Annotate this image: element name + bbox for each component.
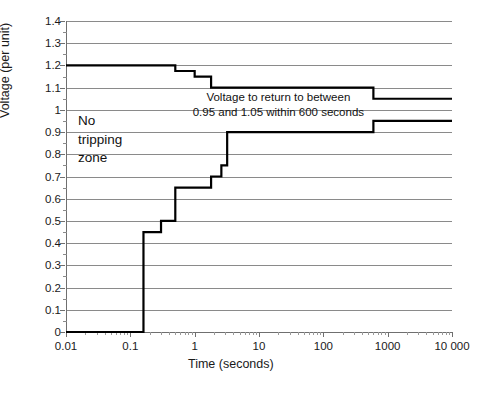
x-axis-minor-tick bbox=[298, 332, 299, 335]
x-axis-minor-tick bbox=[309, 332, 310, 335]
y-axis-minor-tick bbox=[63, 254, 67, 255]
y-axis-minor-tick bbox=[63, 299, 67, 300]
y-axis-tick bbox=[60, 221, 65, 222]
x-axis-minor-tick bbox=[385, 332, 386, 335]
x-axis-tick bbox=[66, 332, 67, 337]
gridline bbox=[66, 177, 452, 178]
x-axis-minor-tick bbox=[373, 332, 374, 335]
gridline bbox=[66, 132, 452, 133]
x-axis-minor-tick bbox=[317, 332, 318, 335]
x-axis-tick bbox=[195, 332, 196, 337]
x-axis-minor-tick bbox=[256, 332, 257, 335]
x-axis-minor-tick bbox=[192, 332, 193, 335]
y-axis-tick-label: 0.6 bbox=[45, 193, 61, 205]
x-axis-tick-label: 10 000 bbox=[434, 340, 469, 352]
x-axis-minor-tick bbox=[278, 332, 279, 335]
x-axis-minor-tick bbox=[214, 332, 215, 335]
x-axis-tick bbox=[130, 332, 131, 337]
x-axis-minor-tick bbox=[180, 332, 181, 335]
x-axis-minor-tick bbox=[120, 332, 121, 335]
no-tripping-zone-line3: zone bbox=[78, 149, 122, 168]
x-axis-minor-tick bbox=[225, 332, 226, 335]
y-axis-tick bbox=[60, 154, 65, 155]
y-axis-tick bbox=[60, 265, 65, 266]
x-axis-minor-tick bbox=[97, 332, 98, 335]
y-axis-tick-label: 0.1 bbox=[45, 304, 61, 316]
y-axis-minor-tick bbox=[63, 32, 67, 33]
y-axis-minor-tick bbox=[63, 276, 67, 277]
gridline bbox=[66, 43, 452, 44]
x-axis-minor-tick bbox=[233, 332, 234, 335]
y-axis-line bbox=[66, 21, 67, 332]
y-axis-tick bbox=[60, 132, 65, 133]
x-axis-tick bbox=[452, 332, 453, 337]
x-axis-minor-tick bbox=[407, 332, 408, 335]
x-axis-minor-tick bbox=[169, 332, 170, 335]
gridline bbox=[66, 310, 452, 311]
y-axis-minor-tick bbox=[63, 188, 67, 189]
x-axis-minor-tick bbox=[368, 332, 369, 335]
x-axis-minor-tick bbox=[320, 332, 321, 335]
x-axis-tick-label: 100 bbox=[314, 340, 333, 352]
gridline bbox=[66, 65, 452, 66]
y-axis-minor-tick bbox=[63, 321, 67, 322]
y-axis-minor-tick bbox=[63, 210, 67, 211]
y-axis-tick-label: 1.3 bbox=[45, 37, 61, 49]
x-axis-minor-tick bbox=[304, 332, 305, 335]
gridline bbox=[66, 199, 452, 200]
x-axis-tick-label: 1000 bbox=[375, 340, 401, 352]
y-axis-tick bbox=[60, 65, 65, 66]
y-axis-minor-tick bbox=[63, 77, 67, 78]
x-axis-minor-tick bbox=[381, 332, 382, 335]
x-axis-minor-tick bbox=[124, 332, 125, 335]
x-axis-minor-tick bbox=[249, 332, 250, 335]
x-axis-minor-tick bbox=[446, 332, 447, 335]
annotation-no-tripping-zone: No tripping zone bbox=[78, 112, 122, 168]
series-curves bbox=[0, 0, 480, 395]
y-axis-tick-label: 0.2 bbox=[45, 282, 61, 294]
gridline bbox=[66, 21, 452, 22]
x-axis-tick bbox=[323, 332, 324, 337]
x-axis-minor-tick bbox=[111, 332, 112, 335]
x-axis-tick-label: 10 bbox=[253, 340, 266, 352]
x-axis-minor-tick bbox=[188, 332, 189, 335]
x-axis-minor-tick bbox=[245, 332, 246, 335]
x-axis-minor-tick bbox=[418, 332, 419, 335]
x-axis-minor-tick bbox=[378, 332, 379, 335]
x-axis-minor-tick bbox=[105, 332, 106, 335]
y-axis-tick-label: 0.8 bbox=[45, 148, 61, 160]
x-axis-minor-tick bbox=[185, 332, 186, 335]
x-axis-minor-tick bbox=[354, 332, 355, 335]
no-tripping-zone-line1: No bbox=[78, 112, 122, 131]
y-axis-tick-label: 1.4 bbox=[45, 15, 61, 27]
y-axis-tick bbox=[60, 110, 65, 111]
x-axis-tick-label: 0.01 bbox=[55, 340, 77, 352]
chart-canvas: 00.10.20.30.40.50.60.70.80.911.11.21.31.… bbox=[0, 0, 480, 395]
lower-limit-curve bbox=[66, 121, 452, 332]
y-axis-tick bbox=[60, 310, 65, 311]
y-axis-tick-label: 1.2 bbox=[45, 59, 61, 71]
no-tripping-zone-line2: tripping bbox=[78, 131, 122, 150]
x-axis-minor-tick bbox=[426, 332, 427, 335]
x-axis-minor-tick bbox=[438, 332, 439, 335]
y-axis-tick-label: 1.1 bbox=[45, 82, 61, 94]
y-axis-tick bbox=[60, 88, 65, 89]
x-axis-minor-tick bbox=[290, 332, 291, 335]
y-axis-tick-label: 0.3 bbox=[45, 259, 61, 271]
y-axis-tick-label: 0.5 bbox=[45, 215, 61, 227]
x-axis-tick-label: 0.1 bbox=[122, 340, 138, 352]
y-axis-tick bbox=[60, 43, 65, 44]
x-axis-tick bbox=[259, 332, 260, 337]
gridline bbox=[66, 221, 452, 222]
y-axis-tick bbox=[60, 177, 65, 178]
x-axis-minor-tick bbox=[253, 332, 254, 335]
y-axis-tick bbox=[60, 21, 65, 22]
y-axis-title: Voltage (per unit) bbox=[0, 23, 12, 118]
gridline bbox=[66, 243, 452, 244]
gridline bbox=[66, 265, 452, 266]
y-axis-minor-tick bbox=[63, 165, 67, 166]
y-axis-tick-label: 0.7 bbox=[45, 171, 61, 183]
y-axis-minor-tick bbox=[63, 143, 67, 144]
x-axis-minor-tick bbox=[127, 332, 128, 335]
x-axis-minor-tick bbox=[150, 332, 151, 335]
